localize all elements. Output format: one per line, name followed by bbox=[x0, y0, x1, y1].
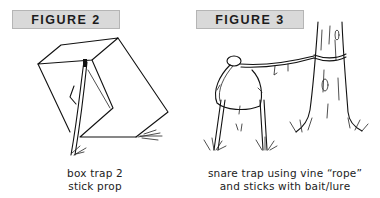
figure-2-panel: FIGURE 2 box trap 2 stick prop bbox=[0, 0, 190, 198]
box-trap-illustration bbox=[0, 0, 190, 165]
figure-2-caption: box trap 2 stick prop bbox=[40, 167, 150, 193]
figure-3-caption-line-2: and sticks with bait/lure bbox=[190, 180, 380, 193]
figure-3-caption-line-1: snare trap using vine “rope” bbox=[190, 167, 380, 180]
figure-2-caption-line-2: stick prop bbox=[40, 180, 150, 193]
figure-3-caption: snare trap using vine “rope” and sticks … bbox=[190, 167, 380, 193]
snare-trap-illustration bbox=[190, 0, 380, 165]
figure-2-caption-line-1: box trap 2 bbox=[40, 167, 150, 180]
figure-3-panel: FIGURE 3 snare trap using vine “rope” an… bbox=[190, 0, 380, 198]
